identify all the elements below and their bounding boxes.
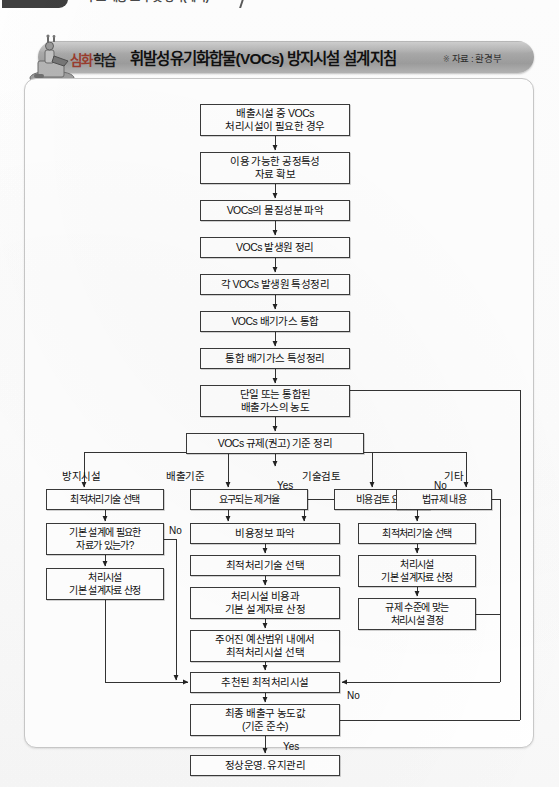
node-n12: 정상운영. 유지관리 [190, 755, 340, 776]
node-b4: 법규제 내용 [396, 489, 492, 510]
node-b2b: 최적처리기술 선택 [190, 555, 340, 576]
node-b2d: 주어진 예산범위 내에서 최적처리시설 선택 [190, 630, 340, 662]
node-b1-result: 처리시설 기본 설계자료 산정 [46, 568, 164, 600]
node-n8: 단일 또는 통합된 배출가스의 농도 [200, 385, 350, 417]
node-n10: 추천된 최적처리시설 [190, 672, 340, 693]
banner-title: 휘발성유기화합물(VOCs) 방지시설 설계지침 [130, 46, 396, 68]
node-n2: 이용 가능한 공정특성 자료 확보 [200, 152, 350, 184]
edge-label-branch-3: 기술검토 [302, 468, 340, 483]
source-marker-icon: ※ [443, 55, 449, 64]
node-n4: VOCs 발생원 정리 [200, 237, 350, 258]
node-b4a: 최적처리기술 선택 [358, 523, 476, 544]
page-header-crop: 주요 내용 요약 및 정리(계속) [0, 0, 559, 14]
node-b2c: 처리시설 비용과 기본 설계자료 산정 [190, 587, 340, 619]
banner-badge: 심화학습 [70, 49, 116, 69]
node-b1: 최적처리기술 선택 [46, 489, 164, 510]
edge-label-branch-1: 방지시설 [62, 468, 100, 483]
node-n9: VOCs 규제(권고) 기준 정리 [186, 433, 364, 454]
node-n7: 통합 배기가스 특성정리 [200, 348, 350, 369]
node-b2a: 비용정보 파악 [190, 523, 340, 544]
node-n5: 각 VOCs 발생원 특성정리 [200, 274, 350, 295]
source-text: 자료 : 환경부 [452, 53, 502, 64]
page-header-slash [239, 0, 249, 8]
node-b1-decision: 기본 설계에 필요한 자료가 있는가? [46, 523, 164, 555]
edge-label-no-data: No [169, 525, 182, 536]
edge-label-no-final: No [347, 690, 360, 701]
node-n11-decision: 최종 배출구 농도값 (기준 준수) [190, 704, 340, 736]
edge-label-yes-cost: Yes [277, 480, 293, 491]
node-n6: VOCs 배기가스 통합 [200, 311, 350, 332]
banner-badge-highlight: 심화 [70, 53, 93, 68]
edge-label-branch-2: 배출기준 [166, 468, 204, 483]
banner-source: ※ 자료 : 환경부 [443, 51, 501, 65]
node-b4b: 처리시설 기본 설계자료 산정 [358, 555, 476, 587]
page-header-heading: 주요 내용 요약 및 정리(계속) [86, 0, 209, 4]
node-n1: 배출시설 중 VOCs 처리시설이 필요한 경우 [200, 104, 350, 136]
node-n3: VOCs의 물질성분 파악 [200, 200, 350, 221]
node-b4c: 규제 수준에 맞는 처리시설 결정 [358, 598, 476, 630]
banner-badge-rest: 학습 [93, 53, 116, 68]
node-b2: 요구되는 제거율 [190, 489, 308, 510]
page-header-tab [2, 0, 68, 8]
edge-label-yes-final: Yes [283, 741, 299, 752]
edge-label-no-cost: No [434, 480, 447, 491]
